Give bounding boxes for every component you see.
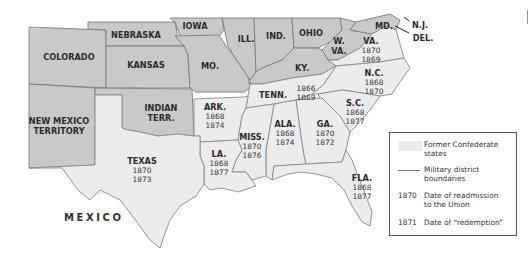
label-south-carolina: S.C. [346, 98, 364, 108]
label-new-jersey: N.J. [412, 20, 428, 30]
virginia-readmission: 1870 [362, 46, 381, 55]
legend-item-military-district: Military district boundaries [398, 165, 512, 183]
label-delaware: DEL. [413, 33, 434, 43]
label-north-carolina: N.C. [364, 68, 383, 78]
label-kansas: KANSAS [127, 60, 165, 70]
florida-readmission: 1868 [353, 183, 372, 192]
legend-text: Military district [424, 165, 512, 174]
arkansas-redemption: 1874 [206, 121, 225, 130]
texas-redemption: 1873 [133, 175, 152, 184]
label-indian-territory-2: TERR. [147, 113, 174, 123]
legend-item-readmission: 1870 Date of readmission to the Union [398, 191, 512, 209]
label-virginia: VA. [363, 36, 378, 46]
louisiana-readmission: 1868 [210, 159, 229, 168]
label-mexico: MEXICO [64, 212, 124, 223]
alabama-redemption: 1874 [276, 138, 295, 147]
georgia-redemption: 1872 [316, 138, 335, 147]
tennessee-redemption: 1869 [297, 93, 316, 102]
alabama-readmission: 1868 [276, 129, 295, 138]
label-missouri: MO. [201, 61, 219, 71]
map-legend: Former Confederate states Military distr… [389, 132, 517, 236]
legend-text: states [424, 149, 512, 158]
label-arkansas: ARK. [204, 102, 226, 112]
edge-mark [527, 10, 528, 24]
louisiana-redemption: 1877 [210, 168, 229, 177]
legend-text: Date of readmission [424, 191, 512, 200]
legend-text: to the Union [424, 200, 512, 209]
label-west-virginia-2: VA. [331, 46, 346, 56]
mississippi-readmission: 1870 [243, 142, 262, 151]
label-west-virginia-1: W. [333, 36, 344, 46]
virginia-redemption: 1869 [362, 55, 381, 64]
florida-redemption: 1877 [353, 192, 372, 201]
label-texas: TEXAS [127, 156, 157, 166]
legend-text: Date of “redemption” [424, 218, 512, 227]
label-iowa: IOWA [182, 21, 208, 31]
label-louisiana: LA. [212, 149, 227, 159]
label-new-mexico-1: NEW MEXICO [29, 116, 89, 126]
label-colorado: COLORADO [43, 52, 94, 62]
legend-key: 1871 [398, 218, 424, 227]
south-carolina-redemption: 1877 [346, 117, 365, 126]
north-carolina-redemption: 1870 [365, 87, 384, 96]
label-illinois: ILL. [238, 34, 255, 44]
legend-text: boundaries [424, 174, 512, 183]
label-georgia: GA. [317, 119, 333, 129]
legend-item-confederate: Former Confederate states [398, 140, 512, 158]
label-florida: FLA. [352, 173, 372, 183]
legend-key: 1870 [398, 191, 424, 209]
label-ohio: OHIO [299, 28, 323, 38]
legend-text: Former Confederate [424, 140, 512, 149]
confederate-swatch-icon [398, 141, 422, 151]
label-tennessee: TENN. [259, 90, 287, 100]
label-kentucky: KY. [295, 63, 309, 73]
south-carolina-readmission: 1868 [346, 108, 365, 117]
label-new-mexico-2: TERRITORY [33, 126, 85, 136]
label-maryland: MD. [375, 21, 393, 31]
texas-readmission: 1870 [133, 166, 152, 175]
label-alabama: ALA. [274, 119, 295, 129]
mississippi-redemption: 1876 [243, 151, 262, 160]
tennessee-readmission: 1866 [297, 84, 316, 93]
label-nebraska: NEBRASKA [111, 30, 162, 40]
georgia-readmission: 1870 [316, 129, 335, 138]
legend-item-redemption: 1871 Date of “redemption” [398, 218, 512, 227]
boundary-line-icon [398, 170, 420, 171]
label-mississippi: MISS. [239, 132, 265, 142]
arkansas-readmission: 1868 [206, 112, 225, 121]
label-indiana: IND. [266, 31, 286, 41]
label-indian-territory-1: INDIAN [145, 103, 178, 113]
north-carolina-readmission: 1868 [365, 78, 384, 87]
